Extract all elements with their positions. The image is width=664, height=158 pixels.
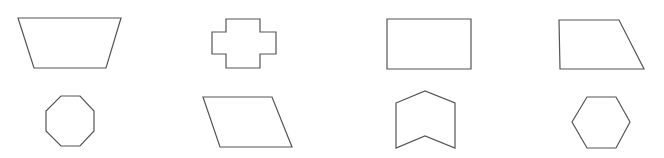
shapes-canvas <box>0 0 664 158</box>
rectangle-shape <box>387 19 471 69</box>
hexagon-shape <box>572 97 630 148</box>
chevron-pentagon-shape <box>396 91 455 148</box>
octagon-shape <box>46 96 94 146</box>
cross-shape <box>212 19 276 68</box>
parallelogram-shape <box>203 97 292 147</box>
trapezoid-shape <box>18 18 121 68</box>
right-trapezoid-shape <box>559 20 644 69</box>
